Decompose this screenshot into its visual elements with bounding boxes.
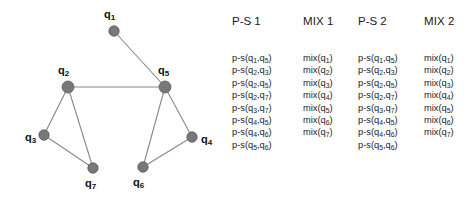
graph-node-q4 [187, 132, 197, 142]
graph-panel: q1q2q3q4q5q6q7 [0, 0, 232, 198]
graph-node-q7 [88, 163, 98, 173]
graph-edge-q3-q7 [44, 135, 93, 168]
cell-mix1-3: mix(q3) [303, 77, 365, 89]
graph-node-label-q7: q7 [85, 178, 96, 189]
cell-mix2-5: mix(q5) [424, 102, 474, 114]
column-header-mix-2: MIX 2 [424, 16, 474, 28]
graph-node-q3 [39, 130, 49, 140]
cell-ps2-2: p-s(q2,q3) [358, 64, 420, 76]
graph-node-q5 [159, 81, 171, 93]
graph-edge-q1-q5 [114, 31, 165, 87]
column-header-ps-1: P-S 1 [232, 16, 294, 28]
cell-mix2-1: mix(q1) [424, 52, 474, 64]
cell-ps2-5: p-s(q3,q7) [358, 102, 420, 114]
cell-ps1-7: p-s(q4,q6) [232, 126, 294, 138]
column-rows-mix-2: mix(q1)mix(q2)mix(q3)mix(q4)mix(q5)mix(q… [424, 52, 474, 139]
column-rows-ps-2: p-s(q1,q5)p-s(q2,q3)p-s(q2,q5)p-s(q2,q7)… [358, 52, 420, 151]
node-layer [39, 26, 197, 173]
graph-edge-q2-q7 [68, 87, 93, 168]
cell-ps1-6: p-s(q4,q5) [232, 114, 294, 126]
cell-ps2-7: p-s(q4,q6) [358, 126, 420, 138]
graph-node-label-q5: q5 [158, 65, 169, 76]
cell-mix2-7: mix(q7) [424, 126, 474, 138]
column-header-ps-2: P-S 2 [358, 16, 420, 28]
graph-node-q6 [138, 162, 148, 172]
graph-diagram [0, 0, 232, 198]
cell-ps1-2: p-s(q2,q3) [232, 64, 294, 76]
cell-mix1-7: mix(q7) [303, 126, 365, 138]
cell-ps1-1: p-s(q1,q5) [232, 52, 294, 64]
cell-ps2-6: p-s(q4,q5) [358, 114, 420, 126]
cell-ps2-4: p-s(q2,q7) [358, 89, 420, 101]
edge-layer [44, 31, 192, 168]
cell-mix2-4: mix(q4) [424, 89, 474, 101]
column-rows-mix-1: mix(q1)mix(q2)mix(q3)mix(q4)mix(q5)mix(q… [303, 52, 365, 139]
graph-node-label-q6: q6 [133, 177, 144, 188]
cell-ps2-1: p-s(q1,q5) [358, 52, 420, 64]
cell-ps1-3: p-s(q2,q5) [232, 77, 294, 89]
column-header-mix-1: MIX 1 [303, 16, 365, 28]
cell-ps1-5: p-s(q3,q7) [232, 102, 294, 114]
cell-mix1-5: mix(q5) [303, 102, 365, 114]
cell-ps1-8: p-s(q5,q6) [232, 139, 294, 151]
cell-mix2-3: mix(q3) [424, 77, 474, 89]
graph-node-label-q1: q1 [104, 9, 115, 20]
cell-mix1-4: mix(q4) [303, 89, 365, 101]
graph-node-label-q3: q3 [25, 132, 36, 143]
cell-mix1-1: mix(q1) [303, 52, 365, 64]
cell-mix1-2: mix(q2) [303, 64, 365, 76]
cell-mix1-6: mix(q6) [303, 114, 365, 126]
cell-ps2-8: p-s(q5,q6) [358, 139, 420, 151]
graph-node-q2 [62, 81, 74, 93]
cell-ps2-3: p-s(q2,q5) [358, 77, 420, 89]
cell-mix2-2: mix(q2) [424, 64, 474, 76]
cell-ps1-4: p-s(q2,q7) [232, 89, 294, 101]
graph-edge-q5-q4 [165, 87, 192, 137]
column-rows-ps-1: p-s(q1,q5)p-s(q2,q3)p-s(q2,q5)p-s(q2,q7)… [232, 52, 294, 151]
graph-edge-q2-q3 [44, 87, 68, 135]
operation-columns-panel: P-S 1 p-s(q1,q5)p-s(q2,q3)p-s(q2,q5)p-s(… [232, 0, 474, 198]
graph-node-label-q2: q2 [58, 65, 69, 76]
graph-node-q1 [109, 26, 119, 36]
cell-mix2-6: mix(q6) [424, 114, 474, 126]
graph-node-label-q4: q4 [201, 134, 212, 145]
